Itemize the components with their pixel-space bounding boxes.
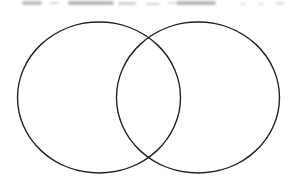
venn-circle-left	[18, 22, 181, 173]
venn-diagram	[0, 0, 288, 182]
venn-circle-right	[117, 22, 280, 173]
